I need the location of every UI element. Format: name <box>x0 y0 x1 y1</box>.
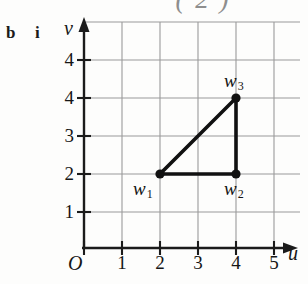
y-tick-label-top: 4 <box>52 49 74 71</box>
grid-lines <box>84 22 300 248</box>
point-marker-w1 <box>155 169 164 178</box>
y-axis-label: v <box>64 17 73 40</box>
x-tick-label-2: 2 <box>150 252 170 274</box>
vertex-label-w2-base: w <box>224 178 237 199</box>
y-tick-label-2: 2 <box>52 163 74 185</box>
axis-lines <box>82 28 288 248</box>
coordinate-plot <box>0 0 308 284</box>
vertex-label-w1-base: w <box>133 178 146 199</box>
vertex-label-w1-subscript: 1 <box>146 187 153 201</box>
vertex-label-w3-subscript: 3 <box>237 79 244 93</box>
y-tick-label-1: 1 <box>52 201 74 223</box>
vertex-label-w2: w2 <box>224 178 244 202</box>
y-tick-label-4: 4 <box>52 87 74 109</box>
vertex-label-w2-subscript: 2 <box>237 187 244 201</box>
vertex-label-w1: w1 <box>133 178 153 202</box>
x-tick-label-4: 4 <box>226 252 246 274</box>
x-axis-label: u <box>288 242 298 265</box>
y-axis-arrowhead <box>79 17 90 32</box>
point-marker-w3 <box>231 93 240 102</box>
figure-container: ( 2 ) b i <box>0 0 308 284</box>
vertex-label-w3-base: w <box>224 70 237 91</box>
vertex-label-w3: w3 <box>224 70 244 94</box>
x-tick-label-3: 3 <box>188 252 208 274</box>
origin-label: O <box>68 252 82 275</box>
plot-svg <box>0 0 308 284</box>
y-tick-label-3: 3 <box>52 125 74 147</box>
x-tick-label-1: 1 <box>112 252 132 274</box>
x-tick-label-5: 5 <box>264 252 284 274</box>
